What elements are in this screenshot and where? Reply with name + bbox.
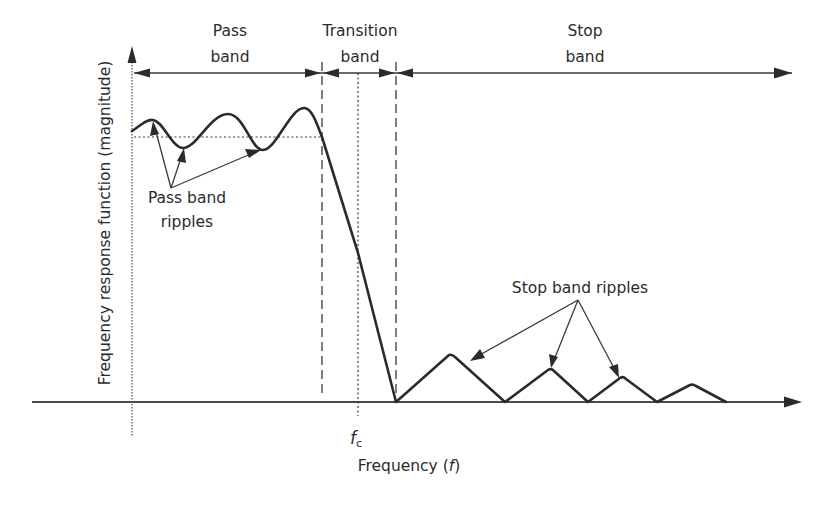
stop-band-right-arrowhead-icon <box>774 68 792 79</box>
pass-band-left-arrowhead-icon <box>134 69 150 78</box>
filter-frequency-response-diagram: Pass band Transition band Stop band Pass… <box>0 0 822 515</box>
stop-band-label-line1: Stop <box>567 22 602 40</box>
x-axis-title-suffix: ) <box>454 457 460 475</box>
band-range-arrows <box>134 68 792 79</box>
frequency-response-curve <box>132 108 726 402</box>
stop-band-ripples-label: Stop band ripples <box>512 279 648 297</box>
pass-band-label-line1: Pass <box>213 22 247 40</box>
x-axis <box>32 397 802 408</box>
stop-band-ripple-arrows <box>470 300 619 378</box>
x-axis-title-prefix: Frequency ( <box>358 457 449 475</box>
transition-band-label-line1: Transition <box>322 22 398 40</box>
stop-band-left-arrowhead-icon <box>397 69 413 78</box>
transition-band-left-arrowhead-icon <box>323 69 339 78</box>
transition-band-right-arrowhead-icon <box>379 69 395 78</box>
y-axis-title: Frequency response function (magnitude) <box>96 61 114 386</box>
pass-band-label-line2: band <box>211 48 250 66</box>
y-axis <box>128 46 137 437</box>
pass-band-ripples-label-line2: ripples <box>161 213 213 231</box>
stop-band-label-line2: band <box>566 48 605 66</box>
y-axis-arrowhead-icon <box>128 46 137 63</box>
cutoff-subscript: c <box>356 437 362 450</box>
x-axis-title: Frequency (f) <box>358 457 461 475</box>
pass-band-ripples-label-line1: Pass band <box>148 189 226 207</box>
cutoff-frequency-label: fc <box>350 428 362 450</box>
pass-band-right-arrowhead-icon <box>305 69 321 78</box>
transition-band-label-line2: band <box>341 48 380 66</box>
x-axis-arrowhead-icon <box>784 397 802 408</box>
